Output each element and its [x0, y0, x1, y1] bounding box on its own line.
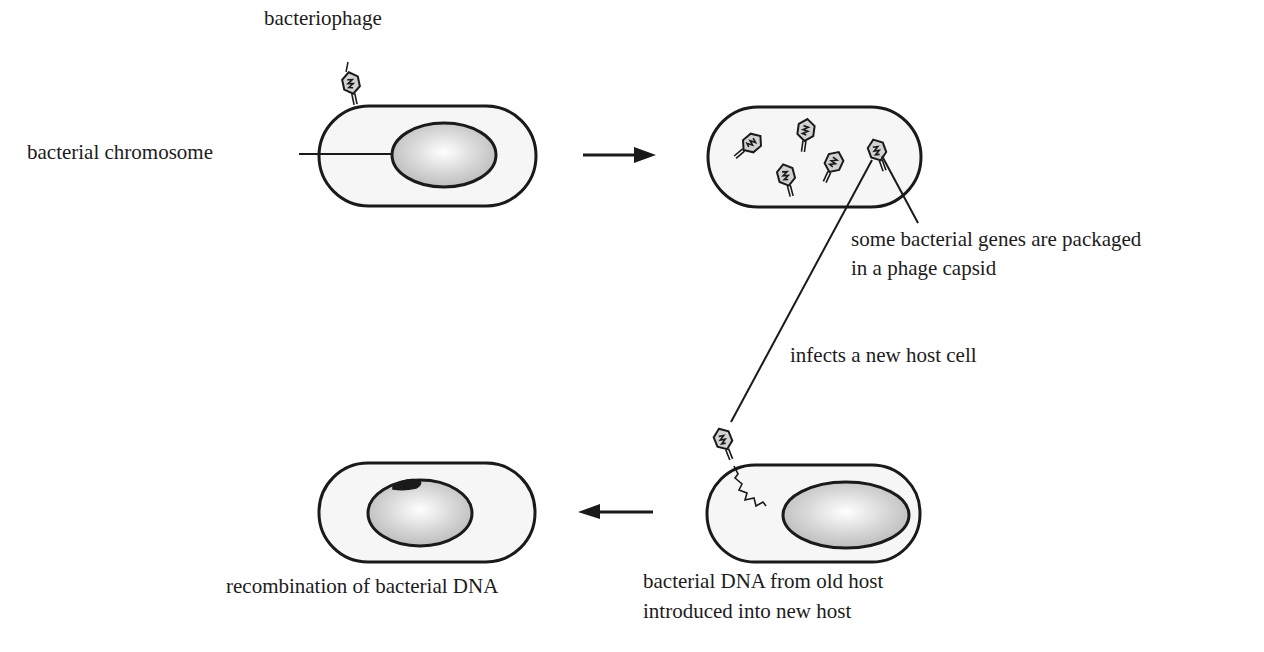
label-bacteriophage: bacteriophage: [264, 5, 382, 32]
label-packaged-line2: in a phage capsid: [851, 255, 996, 282]
arrow-right-icon: [583, 147, 656, 163]
arrow-left-icon: [578, 504, 653, 519]
transduction-diagram: [0, 0, 1264, 652]
cell-stage-transduction: [707, 426, 920, 562]
recombined-chromosome: [368, 480, 472, 546]
label-introduced-line2: introduced into new host: [643, 598, 851, 625]
label-introduced-line1: bacterial DNA from old host: [643, 568, 883, 595]
label-recombination: recombination of bacterial DNA: [226, 573, 498, 600]
label-packaged-line1: some bacterial genes are packaged: [851, 226, 1141, 253]
cell-stage-infection: [319, 62, 536, 206]
label-infects: infects a new host cell: [790, 342, 977, 369]
bacterial-chromosome: [392, 123, 496, 187]
recipient-chromosome: [783, 482, 909, 548]
cell-stage-replication: [708, 107, 921, 207]
phage-icon-attached: [341, 71, 364, 107]
phage-icon-injecting: [711, 426, 738, 463]
label-bacterial-chromosome: bacterial chromosome: [27, 139, 213, 166]
cell-stage-recombination: [319, 463, 535, 562]
